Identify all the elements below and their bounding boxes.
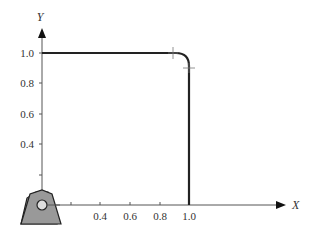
y-axis-arrow-icon	[38, 28, 46, 38]
rounded-path	[42, 53, 189, 205]
cross-marker-icon	[168, 47, 178, 59]
x-tick-label: 0.4	[93, 210, 107, 222]
cross-marker-icon	[183, 63, 195, 73]
x-tick-label: 1.0	[182, 210, 196, 222]
x-axis-arrow-icon	[276, 201, 286, 209]
x-axis-label: X	[291, 198, 300, 212]
y-tick-label: 0.4	[20, 138, 34, 150]
y-tick-label: 0.8	[20, 77, 34, 89]
x-tick-label: 0.6	[123, 210, 137, 222]
x-tick-label: 0.8	[153, 210, 167, 222]
diagram-canvas: 1.0 0.8 0.6 0.4 0.4 0.6 0.8 1.0 Y X	[0, 0, 315, 237]
y-tick-label: 0.6	[20, 108, 34, 120]
y-tick-label: 1.0	[20, 47, 34, 59]
y-axis-label: Y	[37, 10, 45, 24]
pin-support-icon	[21, 190, 61, 224]
